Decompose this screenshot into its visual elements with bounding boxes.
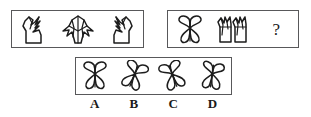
option-label-a: A — [75, 95, 114, 113]
query-figure-2 — [211, 11, 254, 47]
stem-panel — [11, 10, 144, 48]
option-b[interactable] — [115, 58, 154, 94]
angular-flame-left-icon — [17, 13, 51, 45]
query-panel: ? — [167, 10, 299, 48]
stem-figure-2 — [56, 11, 100, 47]
visual-analogy-puzzle: ? — [0, 0, 311, 117]
missing-figure-placeholder: ? — [255, 11, 298, 47]
option-label-b: B — [114, 95, 153, 113]
option-label-d: D — [193, 95, 232, 113]
double-mirrored-tulip-icon — [214, 13, 252, 45]
angular-tent-symmetric-icon — [60, 13, 96, 45]
stem-figure-row — [12, 11, 143, 47]
option-a[interactable] — [76, 58, 115, 94]
butterfly-four-lobe-icon — [173, 13, 207, 45]
butterfly-rotated-icon — [118, 60, 150, 92]
option-c[interactable] — [154, 58, 193, 94]
question-mark: ? — [273, 21, 281, 38]
option-labels-row: A B C D — [75, 95, 232, 115]
butterfly-upright-icon — [79, 60, 111, 92]
query-figure-row: ? — [168, 11, 298, 47]
stem-figure-1 — [12, 11, 56, 47]
option-d[interactable] — [192, 58, 231, 94]
query-figure-1 — [168, 11, 211, 47]
options-figure-row — [76, 58, 231, 94]
butterfly-pinwheel-icon — [196, 60, 228, 92]
stem-figure-3 — [99, 11, 143, 47]
angular-flame-right-icon — [104, 13, 138, 45]
options-panel — [75, 57, 232, 95]
option-label-c: C — [154, 95, 193, 113]
butterfly-tilted-icon — [157, 60, 189, 92]
